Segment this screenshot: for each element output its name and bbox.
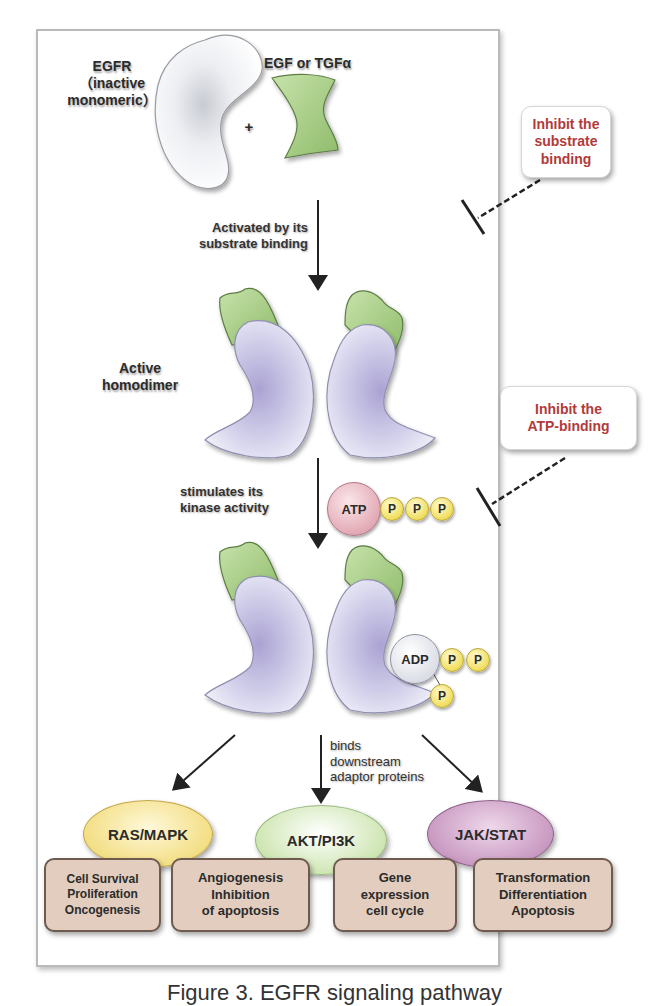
- step3-label: binds downstream adaptor proteins: [330, 738, 470, 785]
- outcome-1-line1: Cell Survival: [65, 872, 140, 888]
- outcome-4-line3: Apoptosis: [496, 903, 591, 920]
- active-homodimer-line2: homodimer: [80, 377, 200, 394]
- outcome-box-2: Angiogenesis Inhibition of apoptosis: [171, 858, 310, 932]
- step1-label-line1: Activated by its: [168, 220, 308, 236]
- active-homodimer-label: Active homodimer: [80, 360, 200, 394]
- atp-phosphate-2: P: [405, 497, 429, 521]
- step2-label-line2: kinase activity: [180, 500, 310, 516]
- step1-label-line2: substrate binding: [168, 236, 308, 252]
- egfr-label-line1: EGFR: [62, 58, 162, 75]
- egfr-label-line3: monomeric）: [62, 92, 162, 109]
- outcome-box-1: Cell Survival Proliferation Oncogenesis: [44, 858, 161, 932]
- egfr-label: EGFR （inactive monomeric）: [62, 58, 162, 108]
- step3-label-line1: binds: [330, 738, 470, 754]
- active-homodimer-line1: Active: [80, 360, 200, 377]
- plus-sign: +: [241, 118, 257, 136]
- atp-molecule: ATP: [327, 482, 381, 536]
- receptor-phosphate: P: [430, 684, 454, 708]
- step1-label: Activated by its substrate binding: [168, 220, 308, 251]
- inhibit-atp-binding-box: Inhibit the ATP-binding: [500, 386, 637, 450]
- adp-phosphate-2: P: [466, 648, 490, 672]
- outcome-2-line1: Angiogenesis: [198, 870, 283, 887]
- adp-molecule: ADP: [390, 634, 440, 684]
- step2-label: stimulates its kinase activity: [180, 484, 310, 515]
- inhibit-substrate-binding-box: Inhibit the substrate binding: [521, 106, 611, 178]
- inhibitor2-line2: ATP-binding: [527, 418, 609, 436]
- ligand-shape: [272, 74, 338, 158]
- outcome-1-line3: Oncogenesis: [65, 903, 140, 919]
- step3-label-line3: adaptor proteins: [330, 769, 470, 785]
- outcome-box-4: Transformation Differentiation Apoptosis: [473, 858, 613, 932]
- outcome-3-line1: Gene: [361, 870, 430, 887]
- dimer2-left-receptor: [205, 321, 313, 458]
- outcome-2-line2: Inhibition: [198, 887, 283, 904]
- dimer3-left-receptor: [205, 576, 313, 713]
- inhibitor1-line2: substrate: [533, 133, 600, 151]
- outcome-box-3: Gene expression cell cycle: [333, 858, 457, 932]
- step2-label-line1: stimulates its: [180, 484, 310, 500]
- egfr-inactive-monomer-shape: [155, 35, 262, 188]
- atp-phosphate-1: P: [380, 497, 404, 521]
- figure-caption: Figure 3. EGFR signaling pathway: [0, 980, 669, 1006]
- inhibitor1-line3: binding: [533, 151, 600, 169]
- outcome-4-line2: Differentiation: [496, 887, 591, 904]
- atp-phosphate-3: P: [430, 497, 454, 521]
- outcome-3-line3: cell cycle: [361, 903, 430, 920]
- adp-phosphate-1: P: [440, 648, 464, 672]
- step3-label-line2: downstream: [330, 754, 470, 770]
- outcome-4-line1: Transformation: [496, 870, 591, 887]
- outcome-1-line2: Proliferation: [65, 887, 140, 903]
- inhibitor2-line1: Inhibit the: [527, 401, 609, 419]
- dimer2-right-receptor: [327, 325, 435, 458]
- inhibitor1-line1: Inhibit the: [533, 116, 600, 134]
- egfr-label-line2: （inactive: [62, 75, 162, 92]
- ligand-label: EGF or TGFα: [264, 55, 374, 72]
- outcome-2-line3: of apoptosis: [198, 903, 283, 920]
- outcome-3-line2: expression: [361, 887, 430, 904]
